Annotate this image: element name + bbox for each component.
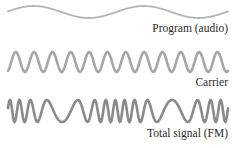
program-audio-wave (8, 6, 228, 18)
program-audio-label: Program (audio) (152, 22, 228, 34)
carrier-wave (8, 52, 228, 72)
fm-total-signal-wave (8, 100, 228, 122)
carrier-label: Carrier (195, 76, 228, 88)
fm-modulation-diagram: Program (audio) Carrier Total signal (FM… (0, 0, 235, 148)
fm-total-signal-label: Total signal (FM) (147, 127, 228, 139)
